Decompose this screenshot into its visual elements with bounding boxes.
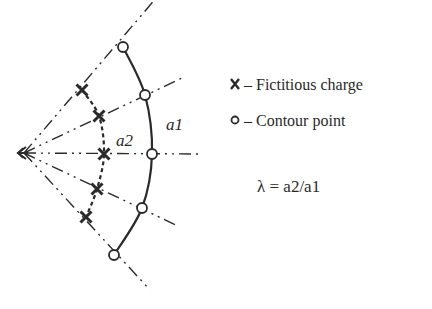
cross-icon: [231, 79, 239, 89]
circle-icon: [232, 117, 239, 124]
legend-label-contour: – Contour point: [243, 112, 346, 130]
legend-item-contour: – Contour point: [232, 112, 346, 130]
ray-line: [24, 153, 178, 226]
contour-point-marker: [137, 203, 147, 213]
fictitious-charge-marker: [77, 85, 88, 96]
contour-point-marker: [109, 250, 119, 260]
origin-arrow-icon: [18, 147, 28, 159]
ray-lines: [24, 0, 200, 290]
diagram-canvas: a1 a2 – Fictitious charge – Contour poin…: [0, 0, 432, 309]
contour-point-marker: [118, 42, 128, 52]
label-a1: a1: [166, 115, 183, 134]
legend-item-charge: – Fictitious charge: [231, 76, 363, 94]
ray-line: [24, 153, 200, 154]
legend: – Fictitious charge – Contour point: [231, 76, 363, 130]
lambda-formula: λ = a2/a1: [257, 177, 320, 196]
contour-point-marker: [147, 149, 157, 159]
contour-arc: [114, 47, 152, 255]
contour-point-marker: [140, 90, 150, 100]
legend-label-charge: – Fictitious charge: [243, 76, 363, 94]
ray-line: [24, 153, 150, 290]
label-a2: a2: [116, 131, 134, 150]
